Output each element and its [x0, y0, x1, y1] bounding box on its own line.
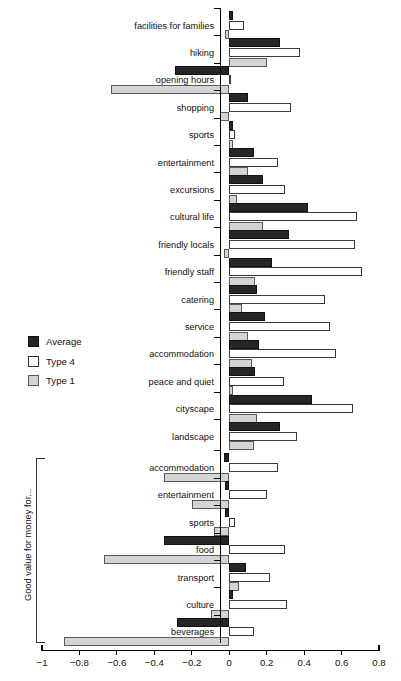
category-label: cultural life	[0, 212, 217, 222]
category-label: cityscape	[0, 404, 217, 414]
x-axis-tick	[266, 650, 267, 655]
bar-t4	[229, 377, 283, 386]
category-label-wrap: cultural life	[0, 212, 217, 222]
bar-t1	[229, 58, 266, 67]
bar-t1	[229, 441, 253, 450]
bar-avg	[229, 563, 246, 572]
bar-avg	[229, 422, 280, 431]
bar-t4	[229, 518, 235, 527]
x-axis-tick-label: 0	[227, 657, 232, 668]
bar-t4	[229, 185, 285, 194]
bar-t4	[229, 48, 300, 57]
category-label-wrap: hiking	[0, 48, 217, 58]
bar-t4	[229, 130, 235, 139]
category-label-wrap: sports	[0, 130, 217, 140]
zero-axis-line	[220, 8, 221, 643]
x-axis-tick-label: −1	[37, 657, 48, 668]
bar-t4	[229, 322, 330, 331]
bar-avg	[229, 590, 233, 599]
category-label-wrap: excursions	[0, 185, 217, 195]
x-axis-tick-label: 0.6	[335, 657, 348, 668]
legend-label-average: Average	[46, 336, 82, 347]
bar-avg	[229, 395, 311, 404]
bar-avg	[229, 367, 255, 376]
chart-legend: Average Type 4 Type 1	[28, 336, 82, 395]
bar-t4	[229, 573, 270, 582]
x-axis-tick-label: −0.8	[70, 657, 89, 668]
bar-avg	[224, 453, 230, 462]
category-label-wrap: cityscape	[0, 404, 217, 414]
bar-t4	[229, 627, 253, 636]
bar-avg	[229, 175, 263, 184]
bar-t4	[229, 267, 362, 276]
bar-avg	[225, 508, 229, 517]
x-axis-tick-label: −0.4	[145, 657, 164, 668]
legend-swatch-average	[28, 336, 39, 347]
x-axis-tick-label: 0.2	[260, 657, 273, 668]
bar-avg	[229, 121, 233, 130]
category-label: facilities for families	[0, 21, 217, 31]
category-label: friendly locals	[0, 240, 217, 250]
x-axis-tick	[116, 650, 117, 655]
bar-avg	[229, 230, 289, 239]
category-label-wrap: landscape	[0, 432, 217, 442]
bar-t4	[229, 21, 244, 30]
bar-t4	[229, 349, 336, 358]
legend-swatch-type-4	[28, 356, 39, 367]
bar-avg	[229, 203, 308, 212]
bar-avg	[229, 258, 272, 267]
bar-avg	[229, 148, 253, 157]
bar-avg	[229, 340, 259, 349]
x-axis-tick-label: 0.8	[372, 657, 385, 668]
bar-avg	[229, 312, 265, 321]
bar-avg	[229, 93, 248, 102]
bar-t4	[229, 295, 324, 304]
legend-label-type-4: Type 4	[46, 356, 75, 367]
x-axis-tick-label: 0.4	[297, 657, 310, 668]
bar-t4	[229, 103, 291, 112]
category-label: catering	[0, 295, 217, 305]
x-axis-tick-label: −0.2	[182, 657, 201, 668]
category-label: entertainment	[0, 158, 217, 168]
horizontal-bar-chart: facilities for familieshikingopening hou…	[0, 0, 401, 681]
bar-avg	[229, 11, 233, 20]
bar-t4	[229, 545, 285, 554]
x-axis-tick	[229, 650, 230, 655]
x-axis-tick	[191, 650, 192, 655]
bar-t4	[229, 404, 353, 413]
bar-avg	[225, 481, 229, 490]
category-label: sports	[0, 130, 217, 140]
category-label: service	[0, 322, 217, 332]
category-label: friendly staff	[0, 267, 217, 277]
category-label-wrap: facilities for families	[0, 21, 217, 31]
bar-t4	[229, 75, 231, 84]
category-label-wrap: opening hours	[0, 75, 217, 85]
legend-swatch-type-1	[28, 375, 39, 386]
category-label-wrap: catering	[0, 295, 217, 305]
category-label: opening hours	[0, 75, 217, 85]
legend-item-average: Average	[28, 336, 82, 347]
group-bracket	[36, 458, 45, 643]
bar-t1	[111, 85, 229, 94]
bar-t4	[229, 432, 296, 441]
category-label-wrap: friendly locals	[0, 240, 217, 250]
x-axis-tick	[378, 645, 379, 651]
category-label: excursions	[0, 185, 217, 195]
category-label-wrap: service	[0, 322, 217, 332]
bar-t4	[229, 158, 278, 167]
bar-t4	[229, 463, 278, 472]
bar-t1	[64, 637, 229, 646]
legend-item-type-1: Type 1	[28, 375, 82, 386]
x-axis-tick	[79, 650, 80, 655]
x-axis-tick-label: −0.6	[107, 657, 126, 668]
bar-t4	[229, 600, 287, 609]
category-label: hiking	[0, 48, 217, 58]
bar-t4	[229, 240, 354, 249]
bar-t1	[192, 500, 229, 509]
category-label-wrap: friendly staff	[0, 267, 217, 277]
bar-avg	[229, 38, 280, 47]
group-axis-label: Good value for money for...	[23, 455, 33, 635]
bar-t4	[229, 212, 356, 221]
category-label-wrap: shopping	[0, 103, 217, 113]
bar-t4	[229, 490, 266, 499]
